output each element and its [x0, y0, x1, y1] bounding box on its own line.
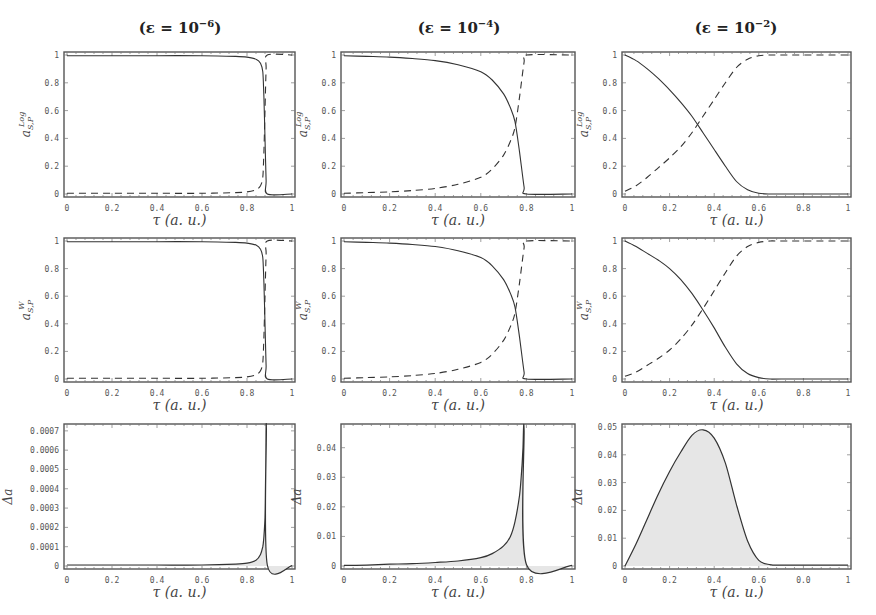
s-curve-solid: [67, 242, 292, 380]
panel-1-1: 00.20.40.60.8100.20.40.60.81τ (a. u.)aS,…: [294, 237, 575, 413]
x-tick-label: 0.8: [519, 204, 534, 213]
x-tick-label: 1: [570, 576, 575, 585]
x-tick-label: 0.8: [796, 204, 811, 213]
panel-0-2: 00.20.40.60.8100.20.40.60.81τ (a. u.)aS,…: [575, 51, 851, 228]
y-tick-label: 0: [331, 190, 336, 199]
y-tick-label: 0.2: [322, 162, 337, 171]
panel-0-1: 00.20.40.60.8100.20.40.60.81τ (a. u.)aS,…: [294, 51, 575, 228]
p-curve-dashed: [344, 241, 572, 379]
y-tick-label: 0.2: [603, 347, 618, 356]
panel-2-1: 00.20.40.60.8100.010.020.030.04τ (a. u.)…: [290, 424, 575, 600]
y-tick-label: 0.8: [45, 265, 60, 274]
y-tick-label: 0: [54, 375, 59, 384]
y-tick-label: 0: [331, 562, 336, 571]
plot-frame: [64, 424, 295, 569]
y-tick-label: 0.03: [598, 479, 617, 488]
y-tick-label: 0.03: [317, 473, 336, 482]
x-tick-label: 0: [342, 204, 347, 213]
y-tick-label: 0.2: [45, 347, 60, 356]
plot-frame: [341, 238, 575, 382]
y-tick-label: 0.4: [45, 134, 60, 143]
x-tick-label: 0: [623, 576, 628, 585]
panel-1-2: 00.20.40.60.8100.20.40.60.81τ (a. u.)aS,…: [575, 237, 851, 413]
s-curve-solid: [344, 242, 572, 380]
y-tick-label: 1: [612, 237, 617, 246]
y-tick-label: 0.8: [322, 79, 337, 88]
y-tick-label: 0.0005: [30, 465, 59, 474]
y-tick-label: 0.0001: [30, 543, 59, 552]
p-curve-dashed: [67, 240, 292, 378]
panel-2-2: 00.20.40.60.0100.010.020.030.040.05τ (a.…: [571, 423, 851, 600]
x-tick-label: 0: [65, 576, 70, 585]
x-tick-label: 0.8: [240, 204, 255, 213]
y-tick-label: 0.6: [322, 107, 337, 116]
y-tick-label: 0.0002: [30, 523, 59, 532]
x-axis-label: τ (a. u.): [710, 584, 764, 600]
area-fill: [344, 424, 572, 573]
x-tick-label: 0.2: [105, 389, 120, 398]
figure-grid: 00.20.40.60.8100.20.40.60.81τ (a. u.)aS,…: [0, 0, 876, 615]
y-axis-label: aS,PW: [294, 299, 312, 320]
x-tick-label: 1: [570, 389, 575, 398]
x-tick-label: 1: [290, 204, 295, 213]
area-fill: [625, 430, 848, 566]
x-tick-label: 0.2: [382, 389, 397, 398]
x-tick-label: 0.2: [105, 204, 120, 213]
p-curve-dashed: [625, 55, 848, 191]
y-tick-label: 0.6: [45, 292, 60, 301]
y-tick-label: 0.8: [603, 265, 618, 274]
x-tick-label: 0.0: [796, 576, 811, 585]
plot-frame: [64, 52, 295, 197]
y-tick-label: 0.6: [45, 107, 60, 116]
plot-frame: [341, 52, 575, 197]
x-tick-label: 0.2: [382, 204, 397, 213]
x-tick-label: 1: [846, 204, 851, 213]
y-tick-label: 0.4: [603, 134, 618, 143]
y-tick-label: 0: [331, 375, 336, 384]
x-tick-label: 0.8: [796, 389, 811, 398]
y-tick-label: 0.0006: [30, 446, 59, 455]
plot-frame: [341, 424, 575, 569]
x-axis-label: τ (a. u.): [431, 212, 485, 228]
y-axis-label: Δa: [290, 489, 304, 506]
y-tick-label: 0: [612, 190, 617, 199]
x-tick-label: 0: [623, 204, 628, 213]
x-tick-label: 0: [65, 204, 70, 213]
x-tick-label: 0.2: [105, 576, 120, 585]
p-curve-dashed: [67, 54, 292, 193]
x-tick-label: 0: [342, 389, 347, 398]
y-tick-label: 0.0007: [30, 427, 59, 436]
y-tick-label: 0.02: [317, 503, 336, 512]
p-curve-dashed: [625, 241, 848, 376]
x-tick-label: 0.2: [382, 576, 397, 585]
x-tick-label: 0.8: [519, 389, 534, 398]
area-fill: [67, 424, 292, 575]
y-tick-label: 0.8: [603, 79, 618, 88]
x-tick-label: 0: [342, 576, 347, 585]
x-axis-label: τ (a. u.): [153, 584, 207, 600]
x-tick-label: 1: [290, 389, 295, 398]
x-axis-label: τ (a. u.): [431, 397, 485, 413]
y-tick-label: 0.8: [45, 79, 60, 88]
y-tick-label: 1: [54, 51, 59, 60]
y-tick-label: 0.04: [598, 451, 617, 460]
s-curve-solid: [67, 56, 292, 195]
panel-0-0: 00.20.40.60.8100.20.40.60.81τ (a. u.)aS,…: [17, 51, 295, 228]
y-tick-label: 0.4: [322, 320, 337, 329]
y-tick-label: 0.4: [322, 134, 337, 143]
x-tick-label: 0.2: [662, 204, 677, 213]
y-tick-label: 0.4: [603, 320, 618, 329]
plot-frame: [622, 52, 851, 197]
x-tick-label: 0: [65, 389, 70, 398]
y-axis-label: aS,PLog: [294, 112, 312, 138]
y-tick-label: 1: [54, 237, 59, 246]
s-curve-solid: [625, 55, 848, 194]
delta-curve: [67, 424, 292, 575]
x-axis-label: τ (a. u.): [153, 397, 207, 413]
x-axis-label: τ (a. u.): [710, 397, 764, 413]
x-tick-label: 0.8: [519, 576, 534, 585]
x-tick-label: 1: [570, 204, 575, 213]
y-tick-label: 0: [54, 190, 59, 199]
y-tick-label: 0: [612, 375, 617, 384]
y-axis-label: aS,PLog: [575, 112, 593, 138]
